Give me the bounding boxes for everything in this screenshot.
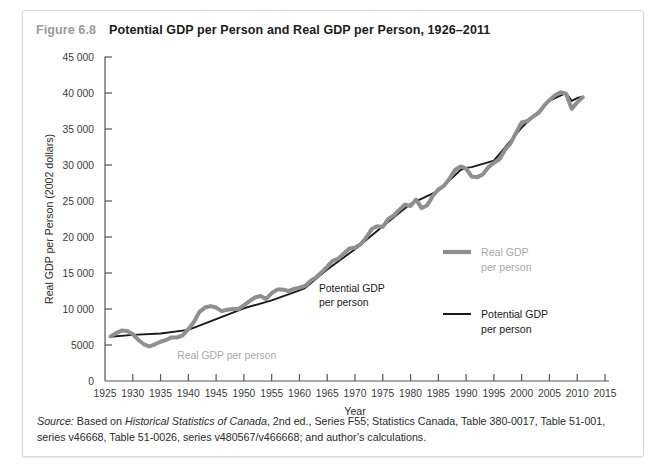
- x-tick-label: 1985: [427, 388, 450, 399]
- y-tick-label: 5000: [71, 340, 94, 351]
- source-text-before: Based on: [74, 415, 125, 427]
- y-tick-label: 20 000: [63, 232, 95, 243]
- x-tick-label: 1975: [371, 388, 394, 399]
- legend-label: Real GDP: [481, 246, 529, 258]
- x-tick-label: 1980: [399, 388, 422, 399]
- x-tick-label: 2015: [594, 388, 617, 399]
- y-tick-label: 10 000: [63, 304, 95, 315]
- x-tick-label: 1935: [149, 388, 172, 399]
- y-tick-label: 15 000: [63, 268, 95, 279]
- x-tick-label: 1950: [232, 388, 255, 399]
- chart-annotation: Potential GDP: [319, 283, 385, 294]
- chart-annotation: Real GDP per person: [177, 350, 276, 361]
- bottom-divider: [23, 456, 641, 457]
- chart-annotation: per person: [319, 297, 369, 308]
- y-tick-label: 0: [88, 376, 94, 387]
- x-tick-label: 1990: [455, 388, 478, 399]
- x-tick-label: 2005: [538, 388, 561, 399]
- x-tick-label: 1965: [316, 388, 339, 399]
- x-tick-label: 1970: [344, 388, 367, 399]
- x-tick-label: 1955: [260, 388, 283, 399]
- y-tick-label: 40 000: [63, 88, 95, 99]
- x-tick-label: 1930: [121, 388, 144, 399]
- source-italic-title: Historical Statistics of Canada: [125, 415, 267, 427]
- x-tick-label: 1940: [177, 388, 200, 399]
- x-tick-label: 2000: [510, 388, 533, 399]
- y-tick-label: 45 000: [63, 52, 95, 63]
- y-axis-title: Real GDP per Person (2002 dollars): [43, 134, 55, 304]
- legend-label: per person: [481, 261, 532, 273]
- y-tick-label: 30 000: [63, 160, 95, 171]
- source-note: Source: Based on Historical Statistics o…: [37, 414, 625, 445]
- source-label: Source:: [37, 415, 74, 427]
- figure-screenshot: Figure 6.8Potential GDP per Person and R…: [0, 0, 664, 467]
- x-tick-label: 1960: [288, 388, 311, 399]
- y-tick-label: 25 000: [63, 196, 95, 207]
- x-tick-label: 1925: [94, 388, 117, 399]
- gdp-line-chart: 0500010 00015 00020 00025 00030 00035 00…: [0, 0, 664, 467]
- x-tick-label: 1945: [205, 388, 228, 399]
- x-tick-label: 1995: [482, 388, 505, 399]
- legend-label: per person: [481, 323, 532, 335]
- legend-label: Potential GDP: [481, 308, 548, 320]
- x-tick-label: 2010: [566, 388, 589, 399]
- y-tick-label: 35 000: [63, 124, 95, 135]
- chart-area: 0500010 00015 00020 00025 00030 00035 00…: [0, 0, 664, 467]
